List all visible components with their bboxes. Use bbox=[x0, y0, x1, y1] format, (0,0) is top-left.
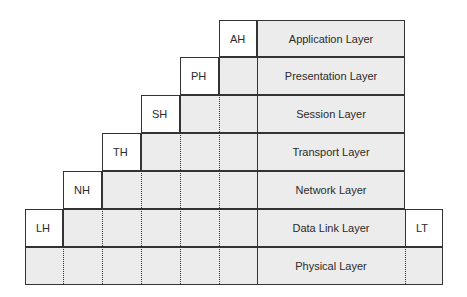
layer-name: Session Layer bbox=[257, 95, 405, 133]
payload-divider bbox=[63, 249, 64, 284]
layer-name: Network Layer bbox=[257, 171, 405, 209]
header-lh: LH bbox=[25, 209, 63, 247]
payload-divider bbox=[405, 249, 406, 284]
layer-name: Presentation Layer bbox=[257, 57, 405, 95]
layer-name: Data Link Layer bbox=[257, 209, 405, 247]
header-th: TH bbox=[102, 133, 141, 171]
payload-divider bbox=[141, 173, 142, 208]
header-sh: SH bbox=[141, 95, 180, 133]
payload-divider bbox=[141, 249, 142, 284]
header-nh: NH bbox=[63, 171, 102, 209]
header-ah: AH bbox=[219, 20, 257, 57]
payload-divider bbox=[219, 173, 220, 208]
header-divider bbox=[219, 57, 220, 95]
payload-divider bbox=[180, 249, 181, 284]
payload-divider bbox=[141, 211, 142, 246]
payload-divider bbox=[180, 211, 181, 246]
payload-divider bbox=[180, 135, 181, 170]
trailer-lt: LT bbox=[405, 209, 443, 247]
header-divider bbox=[102, 171, 103, 209]
header-divider bbox=[180, 95, 181, 133]
payload-divider bbox=[102, 211, 103, 246]
header-ph: PH bbox=[180, 57, 219, 95]
payload-divider bbox=[219, 97, 220, 132]
layer-name: Application Layer bbox=[257, 20, 405, 57]
payload-divider bbox=[102, 249, 103, 284]
layer-name: Transport Layer bbox=[257, 133, 405, 171]
payload-divider bbox=[219, 135, 220, 170]
payload-divider bbox=[180, 173, 181, 208]
payload-divider bbox=[219, 211, 220, 246]
header-divider bbox=[63, 209, 64, 247]
header-divider bbox=[141, 133, 142, 171]
layer-name: Physical Layer bbox=[257, 247, 405, 285]
payload-divider bbox=[219, 249, 220, 284]
